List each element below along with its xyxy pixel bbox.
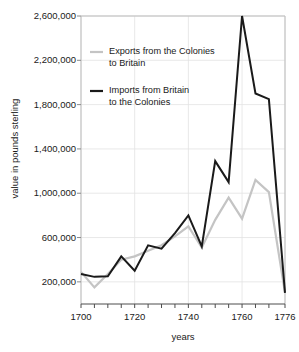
chart-figure: value in pounds sterling years 200,00060… xyxy=(0,0,299,352)
legend-entry-label: Exports from the Colonies to Britain xyxy=(109,46,215,69)
series-line-exports xyxy=(81,180,285,293)
legend-entry-label: Imports from Britain to the Colonies xyxy=(109,85,189,108)
